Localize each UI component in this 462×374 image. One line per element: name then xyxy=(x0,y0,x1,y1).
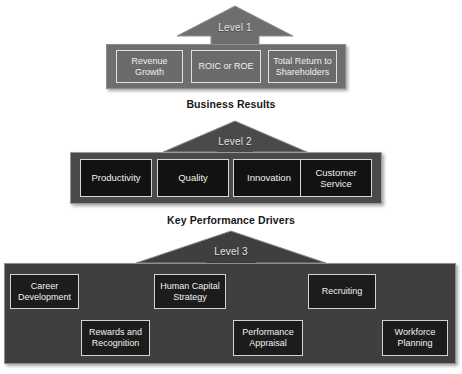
level-1-box-roic-or-roe: ROIC or ROE xyxy=(191,50,261,83)
level-2-box-innovation-label: Innovation xyxy=(247,172,291,183)
level-1-box-roic-or-roe-label: ROIC or ROE xyxy=(198,61,253,72)
caption-business-results: Business Results xyxy=(0,98,462,110)
level-3-box-human-capital-strategy-label: Human Capital Strategy xyxy=(160,281,220,302)
level-3-box-performance-appraisal: Performance Appraisal xyxy=(233,320,303,356)
level-1-box-total-return-to-shareholders-label: Total Return to Shareholders xyxy=(273,56,332,77)
level-3-box-human-capital-strategy: Human Capital Strategy xyxy=(154,274,226,309)
level-3-box-workforce-planning-label: Workforce Planning xyxy=(395,327,436,348)
level-2-box-quality: Quality xyxy=(157,159,229,197)
level-3-box-rewards-and-recognition: Rewards and Recognition xyxy=(81,320,150,356)
caption-key-performance-drivers: Key Performance Drivers xyxy=(0,214,462,226)
level-1-box-revenue-growth: Revenue Growth xyxy=(116,50,183,83)
level-2-box-productivity: Productivity xyxy=(80,159,152,197)
level-3-box-workforce-planning: Workforce Planning xyxy=(382,320,448,356)
level-1-arrow-shape xyxy=(175,4,295,48)
level-2-box-quality-label: Quality xyxy=(178,172,208,183)
level-1-box-revenue-growth-label: Revenue Growth xyxy=(131,56,167,77)
level-1-box-total-return-to-shareholders: Total Return to Shareholders xyxy=(268,50,337,83)
level-3-box-career-development-label: Career Development xyxy=(18,281,71,302)
level-3-box-performance-appraisal-label: Performance Appraisal xyxy=(242,327,294,348)
level-3-box-rewards-and-recognition-label: Rewards and Recognition xyxy=(89,327,142,348)
level-2-box-innovation: Innovation xyxy=(233,159,305,197)
level-2-box-customer-service: Customer Service xyxy=(300,159,372,197)
performance-hierarchy-diagram: Level 1 Revenue Growth ROIC or ROE Total… xyxy=(0,0,462,374)
level-2-box-productivity-label: Productivity xyxy=(91,172,140,183)
level-3-box-career-development: Career Development xyxy=(10,274,79,309)
level-2-box-customer-service-label: Customer Service xyxy=(315,167,356,189)
level-3-box-recruiting-label: Recruiting xyxy=(322,286,363,297)
level-3-box-recruiting: Recruiting xyxy=(308,274,376,309)
level-1-arrow: Level 1 xyxy=(175,4,295,48)
